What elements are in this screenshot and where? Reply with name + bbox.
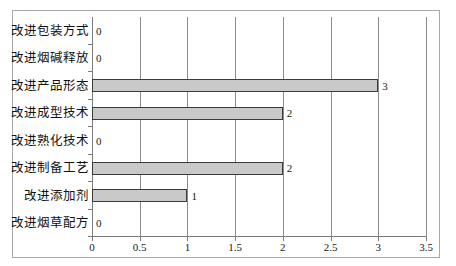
x-axis-tick-label: 0 xyxy=(89,241,95,253)
bar[interactable] xyxy=(92,162,283,175)
bar[interactable] xyxy=(92,189,187,202)
bar-value-label: 2 xyxy=(287,107,293,119)
category-label: 改进添加剂 xyxy=(24,189,89,203)
x-axis-tick-label: 3 xyxy=(376,241,382,253)
bar-row: 2 xyxy=(92,100,426,128)
bar-value-label: 2 xyxy=(287,162,293,174)
x-axis-tick-label: 1.5 xyxy=(228,241,242,253)
category-label: 改进烟碱释放 xyxy=(11,51,89,65)
x-axis-tick-label: 0.5 xyxy=(133,241,147,253)
bar-value-label: 1 xyxy=(191,190,197,202)
x-axis-tick-label: 2 xyxy=(280,241,286,253)
bar-value-label: 0 xyxy=(96,217,102,229)
bar[interactable] xyxy=(92,79,378,92)
bar-row: 0 xyxy=(92,17,426,45)
bar-value-label: 0 xyxy=(96,25,102,37)
gridline xyxy=(426,17,427,237)
plot-area: 00.511.522.533.5 00320210 xyxy=(92,17,426,237)
chart-frame: 改进包装方式 改进烟碱释放 改进产品形态 改进成型技术 改进熟化技术 改进制备工… xyxy=(12,10,440,258)
bar-value-label: 0 xyxy=(96,52,102,64)
category-label: 改进包装方式 xyxy=(11,24,89,38)
category-label: 改进熟化技术 xyxy=(11,134,89,148)
bar[interactable] xyxy=(92,107,283,120)
category-label: 改进烟草配方 xyxy=(11,216,89,230)
bar-row: 0 xyxy=(92,45,426,73)
x-axis-tick-label: 3.5 xyxy=(419,241,433,253)
category-label: 改进成型技术 xyxy=(11,106,89,120)
bar-value-label: 3 xyxy=(382,80,388,92)
category-axis-labels: 改进包装方式 改进烟碱释放 改进产品形态 改进成型技术 改进熟化技术 改进制备工… xyxy=(21,17,89,237)
x-axis-tick-label: 1 xyxy=(185,241,191,253)
bar-row: 2 xyxy=(92,155,426,183)
bar-row: 0 xyxy=(92,127,426,155)
bar-value-label: 0 xyxy=(96,135,102,147)
x-axis-tick-label: 2.5 xyxy=(324,241,338,253)
category-label: 改进产品形态 xyxy=(11,79,89,93)
y-axis-tick-mark xyxy=(88,236,92,237)
bar-row: 1 xyxy=(92,182,426,210)
category-label: 改进制备工艺 xyxy=(11,161,89,175)
bar-row: 0 xyxy=(92,210,426,238)
bar-row: 3 xyxy=(92,72,426,100)
